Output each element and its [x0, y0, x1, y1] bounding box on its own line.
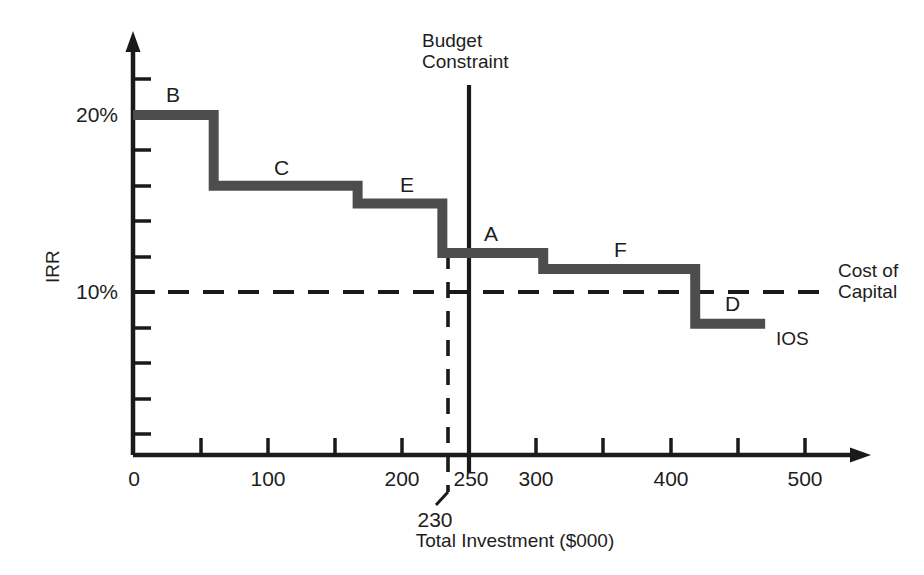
- x-tick-label-100: 100: [243, 467, 293, 491]
- cost-of-capital-label-line2: Capital: [838, 281, 898, 302]
- x-axis: [133, 448, 871, 463]
- y-tick-label-10: 10%: [76, 280, 118, 304]
- step-label-a: A: [484, 222, 498, 246]
- step-label-e: E: [400, 173, 414, 197]
- x-tick-label-230: 230: [408, 508, 462, 532]
- optimal-budget-leader: [436, 492, 448, 505]
- x-tick-label-250: 250: [446, 467, 496, 491]
- x-tick-label-500: 500: [780, 467, 830, 491]
- x-tick-label-0: 0: [123, 467, 145, 491]
- cost-of-capital-label-line1: Cost of: [838, 260, 898, 281]
- y-axis-title: IRR: [42, 250, 63, 283]
- y-tick-label-20: 20%: [76, 103, 118, 127]
- budget-constraint-label-line1: Budget: [422, 30, 509, 51]
- x-axis-ticks: [201, 438, 805, 455]
- y-axis: [126, 31, 141, 455]
- ios-chart: 20% 10% IRR 0 100 200 230 250 300 400 50…: [0, 0, 924, 575]
- x-tick-label-300: 300: [511, 467, 561, 491]
- step-label-f: F: [614, 238, 627, 262]
- budget-constraint-label: Budget Constraint: [422, 30, 509, 73]
- budget-constraint-label-line2: Constraint: [422, 51, 509, 72]
- ios-curve-label: IOS: [776, 328, 809, 349]
- cost-of-capital-label: Cost of Capital: [838, 260, 898, 303]
- step-label-c: C: [274, 156, 289, 180]
- x-tick-label-200: 200: [377, 467, 427, 491]
- step-label-b: B: [166, 83, 180, 107]
- y-axis-ticks: [133, 79, 155, 434]
- step-label-d: D: [725, 292, 740, 316]
- x-tick-label-400: 400: [646, 467, 696, 491]
- x-axis-title: Total Investment ($000): [365, 530, 665, 551]
